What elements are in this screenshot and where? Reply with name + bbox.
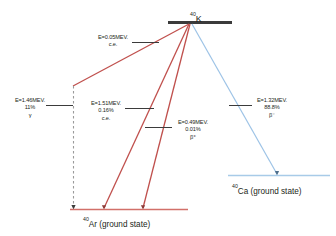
annotation-beta-minus-mode: β⁻	[253, 112, 291, 119]
transition-line-beta-plus	[143, 24, 190, 208]
annotation-ce-151-energy: E=1.51MEV.	[87, 100, 125, 107]
annotation-beta-plus-mode: β⁺	[174, 134, 212, 141]
annotation-ce-005: E=0.05MEV. c.e.	[94, 34, 132, 49]
annotation-ce-151-intensity: 0.16%	[87, 107, 125, 114]
annotation-gamma: E=1.46MEV. 11% γ	[12, 97, 48, 119]
parent-nuclide-label: 40K	[190, 8, 202, 26]
calcium-ground-state-label: 40Ca (ground state)	[232, 180, 302, 198]
argon-ground-state-label: 40Ar (ground state)	[83, 213, 150, 231]
decay-scheme-diagram: 40K E=1.46MEV. 11% γ E=0.05MEV. c.e. E=1…	[0, 0, 336, 236]
annotation-gamma-energy: E=1.46MEV.	[12, 97, 48, 104]
annotation-gamma-mode: γ	[12, 112, 48, 119]
parent-symbol: K	[196, 14, 202, 24]
calcium-state-text: (ground state)	[248, 187, 301, 196]
calcium-symbol: Ca	[238, 187, 248, 196]
argon-state-text: (ground state)	[97, 220, 150, 229]
annotation-beta-minus-energy: E=1.32MEV.	[253, 97, 291, 104]
argon-symbol: Ar	[89, 220, 97, 229]
annotation-beta-plus: E=0.49MEV. 0.01% β⁺	[174, 119, 212, 141]
annotation-ce-005-energy: E=0.05MEV.	[94, 34, 132, 41]
annotation-ce-005-mode: c.e.	[94, 41, 132, 48]
annotation-beta-plus-intensity: 0.01%	[174, 126, 212, 133]
annotation-ce-151-mode: c.e.	[87, 115, 125, 122]
annotation-beta-plus-energy: E=0.49MEV.	[174, 119, 212, 126]
annotation-gamma-intensity: 11%	[12, 104, 48, 111]
annotation-ce-151: E=1.51MEV. 0.16% c.e.	[87, 100, 125, 122]
annotation-beta-minus-intensity: 88.8%	[253, 104, 291, 111]
annotation-beta-minus: E=1.32MEV. 88.8% β⁻	[253, 97, 291, 119]
arrowhead-beta-minus	[275, 171, 279, 175]
